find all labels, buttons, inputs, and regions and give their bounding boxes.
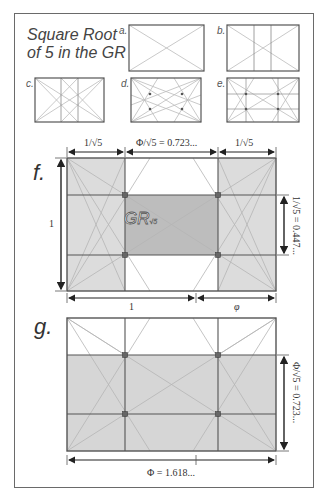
diagram-g xyxy=(67,318,289,465)
gr-text: GR xyxy=(124,209,150,228)
gr-center-label: GR√5 xyxy=(124,209,157,229)
dim-bottom-phi: φ xyxy=(234,301,240,312)
diagram-f xyxy=(55,147,289,303)
dim-top-center: Φ/√5 = 0.723... xyxy=(136,137,197,148)
diagram-g-label: g. xyxy=(34,314,52,340)
dim-left: 1 xyxy=(49,218,54,229)
dim-bottom-one: 1 xyxy=(129,301,134,312)
dim-bottom-g: Φ = 1.618... xyxy=(147,467,195,478)
thumbnail-a xyxy=(129,25,204,71)
gr-subscript: √5 xyxy=(150,218,158,225)
thumbnail-d xyxy=(131,78,201,122)
thumbnail-e xyxy=(227,78,299,122)
thumbnail-b xyxy=(227,25,299,71)
dim-top-left: 1/√5 xyxy=(84,137,102,148)
dim-right-f: 1/√5 = 0.447... xyxy=(291,196,302,255)
thumbnail-c xyxy=(35,78,104,122)
diagram-canvas xyxy=(0,0,329,499)
dim-right-g: Φ/√5 = 0.723... xyxy=(291,362,302,423)
dim-top-right: 1/√5 xyxy=(235,137,253,148)
diagram-f-label: f. xyxy=(33,160,45,186)
